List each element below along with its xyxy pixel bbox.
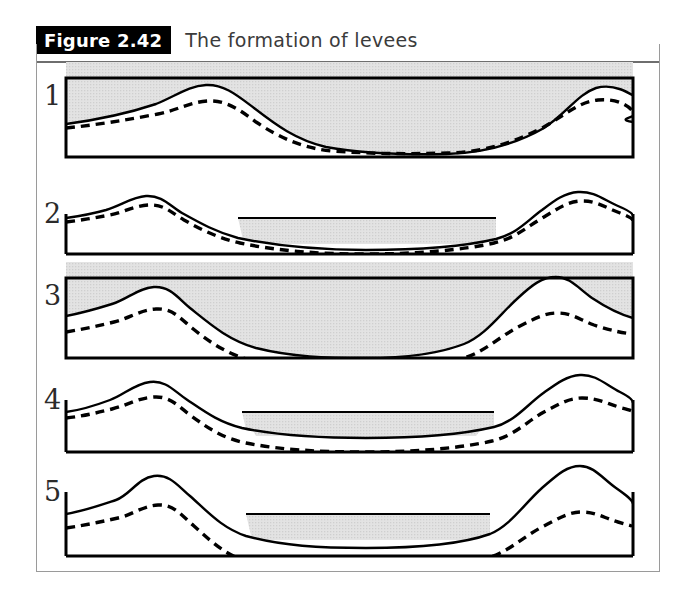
water-fill [66,62,635,154]
panel-cross-section-3 [64,262,635,362]
water-fill [66,262,633,358]
panel-cross-section-5 [64,458,635,560]
panel-cross-section-4 [64,366,635,456]
panel-number-label: 4 [44,386,61,413]
water-fill-channel [238,218,496,242]
panel-cross-section-2 [64,180,635,258]
panel-number-label: 2 [44,200,61,227]
panel-number-label: 5 [44,478,61,505]
panel-cross-section-1 [64,62,635,161]
figure-container: Figure 2.42 The formation of levees 1234… [0,0,676,608]
panel-number-label: 1 [44,82,61,109]
water-fill-channel [246,514,490,538]
panel-number-label: 3 [44,282,61,309]
